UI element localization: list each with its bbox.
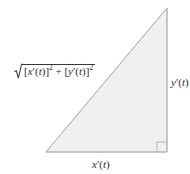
exponent-2: 2 [89,64,93,72]
triangle-graphic [0,0,190,174]
hypotenuse-label: [x′(t)]2 + [y′(t)]2 [14,63,95,79]
vertical-side-label: y′(t) [171,77,189,88]
plus-operator: + [53,65,65,77]
close-paren-x-label: ) [106,158,110,170]
close-paren-y-label: ) [185,76,189,88]
figure-canvas: [x′(t)]2 + [y′(t)]2 y′(t) x′(t) [0,0,190,174]
horizontal-side-label: x′(t) [92,159,110,170]
radicand: [x′(t)]2 + [y′(t)]2 [22,64,95,79]
radical-group: [x′(t)]2 + [y′(t)]2 [14,63,95,79]
